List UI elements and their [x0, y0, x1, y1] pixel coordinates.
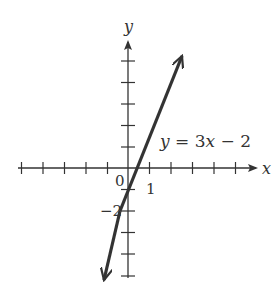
equation-label: y = 3x − 2	[159, 131, 251, 151]
coordinate-plane: y x 0 1 −2 y = 3x − 2	[0, 0, 276, 293]
y-axis-label: y	[123, 17, 134, 36]
x-tick-label-1: 1	[146, 180, 156, 198]
y-tick-label-minus-2: −2	[100, 202, 122, 220]
origin-label: 0	[115, 172, 125, 190]
x-axis-label: x	[262, 159, 271, 178]
graph-line-lower	[104, 211, 120, 280]
